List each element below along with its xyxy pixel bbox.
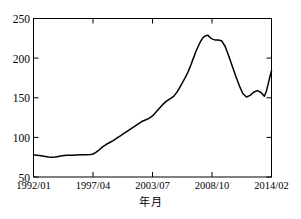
plot-frame: [34, 19, 272, 178]
y-tick-labels: 250 200 150 100 50: [13, 13, 31, 184]
y-tick-label: 150: [13, 92, 31, 104]
x-tick-label: 2008/10: [195, 180, 229, 191]
x-tick-label: 2014/02: [254, 180, 288, 191]
x-tick-labels: 1992/01 1997/04 2003/07 2008/10 2014/02: [16, 180, 288, 191]
x-axis-title: 年月: [0, 193, 301, 209]
x-tick-label: 1997/04: [76, 180, 111, 191]
y-tick-label: 200: [13, 53, 31, 65]
y-tick-label: 100: [13, 132, 31, 144]
y-tick-label: 250: [13, 13, 31, 25]
chart-figure: 250 200 150 100 50 1992/01 1997/04 2003/…: [0, 0, 301, 219]
x-tick-label: 2003/07: [135, 180, 169, 191]
x-tick-label: 1992/01: [16, 180, 50, 191]
line-chart-svg: 250 200 150 100 50 1992/01 1997/04 2003/…: [0, 0, 301, 219]
